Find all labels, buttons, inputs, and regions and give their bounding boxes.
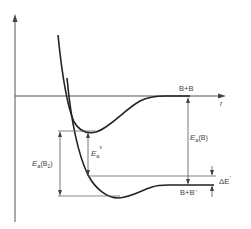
energy-axis-arrowhead-icon [13,14,18,22]
asymptote-label-anion: B+B⁻ [180,188,198,197]
delta-e-prime-label: ΔE′ [219,175,232,186]
electron-affinity-atom-label: Ea(B) [190,133,208,143]
r-axis: r [15,94,226,108]
vertical-detachment-label: Eav [91,144,102,159]
r-axis-arrowhead-icon [218,94,226,99]
energy-axis [13,14,18,222]
curve-neutral-b2 [58,35,190,133]
potential-energy-diagram: r B+B Ea(B) Ea(B2) Eav [0,0,251,229]
electron-affinity-molecule-arrow [58,131,62,196]
asymptote-label-neutral: B+B [179,84,193,93]
vertical-detachment-arrow [86,132,90,176]
delta-e-prime-arrows [210,166,214,197]
r-axis-label: r [220,100,223,107]
electron-affinity-molecule-label: Ea(B2) [32,159,53,169]
